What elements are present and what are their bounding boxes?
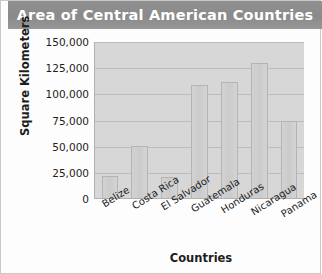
chart-title: Area of Central American Countries: [17, 7, 314, 23]
y-tick-label: 150,000: [25, 36, 89, 48]
y-tick-label: 0: [25, 193, 89, 205]
x-axis-tick-labels: BelizeCosta RicaEl SalvadorGuatemalaHond…: [95, 200, 310, 250]
y-tick-label: 125,000: [25, 62, 89, 74]
chart-title-bar: Area of Central American Countries: [8, 1, 322, 29]
y-tick-label: 75,000: [25, 115, 89, 127]
plot-area: [95, 42, 304, 199]
y-tick-label: 100,000: [25, 88, 89, 100]
bar: [251, 63, 268, 199]
y-tick-label: 50,000: [25, 141, 89, 153]
x-axis-title: Countries: [96, 251, 306, 265]
bar-series: [95, 42, 304, 199]
y-axis-tick-labels: 025,00050,00075,000100,000125,000150,000: [25, 42, 89, 206]
y-tick-label: 25,000: [25, 167, 89, 179]
